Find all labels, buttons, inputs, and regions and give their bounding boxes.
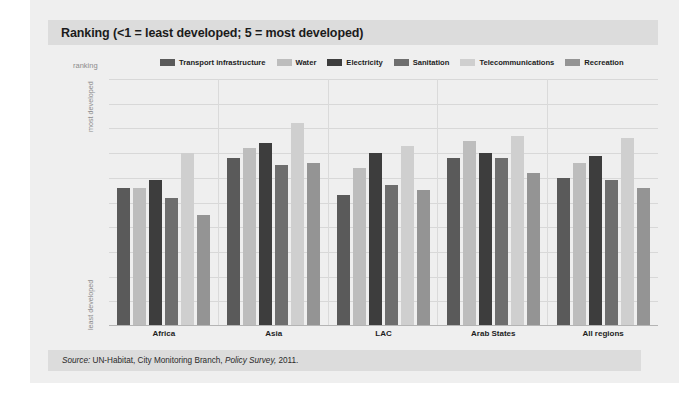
bar	[511, 136, 524, 326]
legend-swatch-icon	[277, 59, 292, 66]
bar	[369, 153, 382, 326]
legend-item: Telecommunications	[460, 58, 554, 67]
legend-swatch-icon	[460, 59, 475, 66]
bar-group	[219, 79, 329, 326]
source-bar: Source: UN-Habitat, City Monitoring Bran…	[48, 350, 641, 371]
bar	[637, 188, 650, 326]
bar-groups	[109, 79, 658, 326]
bar	[243, 148, 256, 326]
legend-item: Transport infrastructure	[160, 58, 266, 67]
bar	[401, 146, 414, 326]
bar	[149, 180, 162, 326]
legend-item: Sanitation	[394, 58, 450, 67]
bar	[417, 190, 430, 326]
legend-swatch-icon	[565, 59, 580, 66]
bar	[275, 165, 288, 326]
legend-label: Recreation	[584, 58, 623, 67]
bar	[527, 173, 540, 326]
bar	[605, 180, 618, 326]
legend-item: Electricity	[327, 58, 382, 67]
bar	[133, 188, 146, 326]
bar	[573, 163, 586, 326]
legend-label: Electricity	[346, 58, 382, 67]
legend-swatch-icon	[160, 59, 175, 66]
x-tick-label: LAC	[329, 329, 439, 338]
bar	[353, 168, 366, 326]
legend-label: Water	[296, 58, 317, 67]
source-year: 2011.	[278, 356, 298, 365]
legend-swatch-icon	[394, 59, 409, 66]
bar	[117, 188, 130, 326]
legend-item: Recreation	[565, 58, 623, 67]
plot-area: 5.04.54.03.53.02.52.01.51.00.50	[109, 79, 658, 326]
bar-group	[548, 79, 658, 326]
bar	[557, 178, 570, 326]
source-prefix: Source:	[62, 356, 90, 365]
bar	[589, 156, 602, 326]
bar	[197, 215, 210, 326]
bar-group	[329, 79, 439, 326]
bar-group	[109, 79, 219, 326]
legend-label: Telecommunications	[479, 58, 554, 67]
legend-label: Transport infrastructure	[179, 58, 266, 67]
chart-legend: Transport infrastructureWaterElectricity…	[160, 58, 624, 67]
bar	[227, 158, 240, 326]
figure-panel: Ranking (<1 = least developed; 5 = most …	[30, 0, 679, 383]
bar	[337, 195, 350, 326]
x-axis-labels: AfricaAsiaLACArab StatesAll regions	[109, 329, 658, 338]
legend-swatch-icon	[327, 59, 342, 66]
x-tick-label: Asia	[219, 329, 329, 338]
bar	[291, 123, 304, 326]
x-tick-label: Africa	[109, 329, 219, 338]
x-tick-label: Arab States	[438, 329, 548, 338]
bar	[259, 143, 272, 326]
bar	[447, 158, 460, 326]
bar	[385, 185, 398, 326]
y-axis-bottom-label: least developed	[86, 280, 95, 330]
source-body: UN-Habitat, City Monitoring Branch,	[93, 356, 223, 365]
bar-group	[438, 79, 548, 326]
bar	[463, 141, 476, 326]
bar	[621, 138, 634, 326]
source-italic: Policy Survey,	[225, 356, 276, 365]
bar	[307, 163, 320, 326]
figure-title: Ranking (<1 = least developed; 5 = most …	[48, 26, 363, 40]
x-tick-label: All regions	[548, 329, 658, 338]
figure-title-bar: Ranking (<1 = least developed; 5 = most …	[48, 20, 658, 45]
legend-item: Water	[277, 58, 317, 67]
y-axis-top-label: most developed	[86, 81, 95, 132]
bar	[181, 153, 194, 326]
source-text: Source: UN-Habitat, City Monitoring Bran…	[48, 356, 298, 365]
bar	[495, 158, 508, 326]
x-axis-line	[109, 325, 658, 326]
legend-label: Sanitation	[413, 58, 450, 67]
y-axis-title: ranking	[73, 61, 98, 70]
bar	[165, 198, 178, 326]
bar	[479, 153, 492, 326]
